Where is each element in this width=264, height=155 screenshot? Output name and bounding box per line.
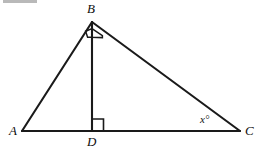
segment-bc [92, 22, 240, 131]
segment-ab [22, 22, 92, 131]
vertex-label-b: B [87, 2, 95, 15]
right-angle-marker-b-right [92, 29, 102, 38]
triangle-diagram-svg [0, 0, 264, 155]
right-angle-marker-d [92, 119, 104, 130]
vertex-label-a: A [9, 124, 17, 137]
angle-label-x: x° [200, 114, 209, 125]
vertex-label-c: C [245, 124, 254, 137]
geometry-figure: A B C D x° [0, 0, 264, 155]
vertex-label-d: D [87, 135, 96, 148]
